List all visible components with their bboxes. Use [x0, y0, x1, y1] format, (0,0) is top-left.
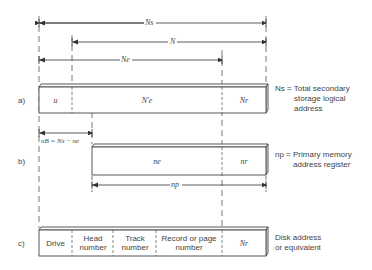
field-track-number: Track number	[115, 234, 155, 252]
row-a-marker: a)	[18, 96, 25, 105]
row-b-description-1: np = Primary memory	[275, 150, 352, 159]
row-a-description-1: Ns = Total secondary	[275, 84, 350, 93]
field-record-or-page-number: Record or page number	[158, 234, 220, 252]
ne-dimension-label: Ne	[121, 55, 130, 64]
field-ne-prime: N′e	[72, 96, 222, 105]
row-c-marker: c)	[18, 239, 25, 248]
row-c-description-1: Disk address	[275, 233, 321, 242]
field-u: u	[39, 96, 72, 105]
row-c-description-2: or equivalent	[275, 243, 321, 252]
row-b-marker: b)	[18, 157, 25, 166]
row-b-description-2: address register	[293, 160, 350, 169]
field-drive: Drive	[39, 239, 72, 248]
field-ne: ne	[92, 157, 222, 166]
field-nr-a: Nr	[222, 96, 266, 105]
field-head-number: Head number	[74, 234, 112, 252]
ns-dimension-label: Ns	[145, 18, 153, 27]
nb-dimension-label: nB = Ns − ne	[41, 137, 79, 146]
diagram-lines	[0, 0, 372, 270]
field-nr-c: Nr	[222, 239, 266, 248]
n-dimension-label: N	[170, 37, 175, 46]
row-a-description-3: address	[294, 104, 322, 113]
np-dimension-label: np	[171, 180, 179, 189]
row-a-description-2: storage logical	[294, 94, 346, 103]
field-nr-b: nr	[222, 157, 266, 166]
